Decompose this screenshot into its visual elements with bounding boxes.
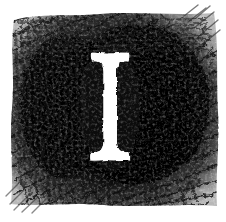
initial-block-svg	[0, 0, 226, 222]
decorative-initial-artwork: Scanned hand-drawn charcoal/woodcut illu…	[0, 0, 226, 222]
